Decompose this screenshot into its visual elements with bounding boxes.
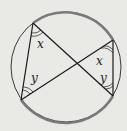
circle-theorem-diagram: x y x y: [0, 0, 127, 131]
highlight-arc-bottom: [21, 96, 113, 123]
chord-bc: [21, 40, 113, 100]
angle-arc-y-left-2: [23, 87, 33, 92]
angle-label-x-left: x: [37, 37, 44, 51]
angle-label-x-right: x: [96, 54, 103, 68]
chord-ab: [21, 23, 33, 100]
angle-arc-x-left: [32, 30, 41, 33]
highlight-arc-top: [33, 12, 113, 40]
angle-label-y-right: y: [99, 71, 107, 85]
angle-label-y-left: y: [30, 71, 38, 85]
angle-arc-y-left: [23, 90, 30, 94]
angle-arc-x-right-2: [101, 48, 113, 53]
